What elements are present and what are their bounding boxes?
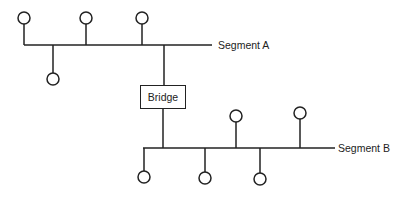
station-icon [47, 73, 59, 85]
bridge-label: Bridge [148, 91, 178, 103]
station-icon [136, 12, 148, 24]
network-lines [0, 0, 409, 200]
station-icon [254, 173, 266, 185]
station-icon [294, 107, 306, 119]
segment-b-label: Segment B [338, 142, 390, 154]
station-icon [18, 12, 30, 24]
lan-bridge-diagram: Segment A Bridge Segment B [0, 0, 409, 200]
station-icon [80, 12, 92, 24]
station-icon [230, 110, 242, 122]
station-icon [138, 171, 150, 183]
segment-a-label: Segment A [218, 39, 269, 51]
bridge-box: Bridge [140, 85, 186, 109]
station-icon [199, 172, 211, 184]
